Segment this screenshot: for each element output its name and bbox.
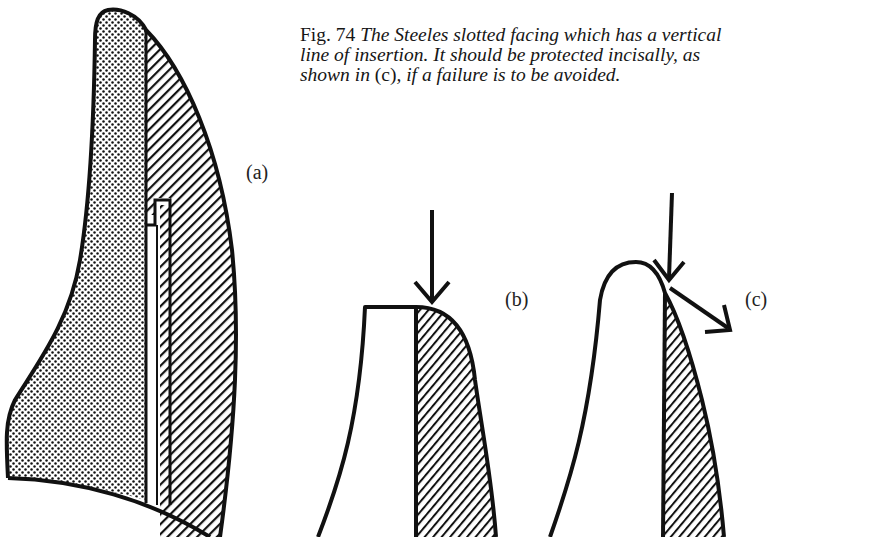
figure-number: Fig. 74 (300, 24, 355, 45)
panel-label-c: (c) (745, 288, 767, 311)
figure-caption: Fig. 74 The Steeles slotted facing which… (300, 25, 870, 85)
panel-a-drawing (7, 10, 236, 537)
panel-reference: (c) (375, 64, 397, 85)
backing-stippled-region (7, 10, 146, 500)
force-arrow-c-icon (654, 193, 684, 280)
panel-label-a: (a) (246, 161, 268, 184)
panel-label-b: (b) (505, 288, 528, 311)
figure-74: Fig. 74 The Steeles slotted facing which… (0, 0, 870, 537)
panel-b-drawing (318, 210, 496, 537)
panel-c-drawing (550, 193, 730, 537)
facing-hatched-b (416, 307, 496, 537)
force-arrow-b-icon (415, 210, 449, 302)
